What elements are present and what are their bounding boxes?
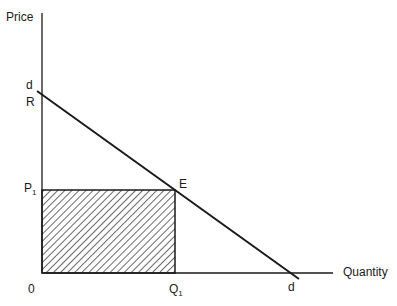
revenue-rectangle (42, 190, 175, 273)
point-p1-label: P1 (24, 182, 36, 196)
quantity-axis-label: Quantity (343, 266, 388, 278)
price-axis-label: Price (6, 11, 33, 23)
p1-main: P (24, 181, 32, 195)
demand-label-top: d (26, 79, 33, 91)
demand-label-bottom: d (288, 281, 295, 293)
origin-label: 0 (28, 283, 35, 295)
p1-subscript: 1 (32, 188, 36, 197)
point-r-label: R (26, 96, 35, 108)
q1-subscript: 1 (178, 289, 182, 298)
q1-main: Q (169, 282, 178, 296)
diagram-canvas (0, 0, 397, 306)
point-e-label: E (179, 178, 187, 190)
point-q1-label: Q1 (169, 283, 183, 297)
